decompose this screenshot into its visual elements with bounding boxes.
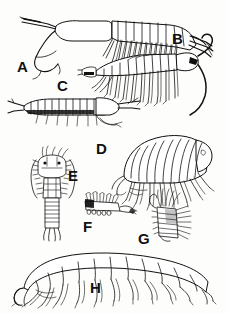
specimen-plate: A B C D E F G H (0, 0, 228, 314)
figure-h-drawing (12, 253, 216, 308)
figure-label-a: A (17, 59, 28, 74)
figure-e-drawing (31, 146, 75, 241)
figure-label-b: B (172, 31, 183, 46)
figure-d-drawing (112, 136, 214, 211)
figure-f-drawing (85, 192, 137, 216)
figure-label-d: D (96, 141, 107, 156)
figure-label-e: E (68, 168, 78, 183)
figure-label-f: F (83, 219, 92, 234)
figure-label-h: H (90, 280, 101, 295)
figure-label-c: C (57, 78, 68, 93)
plate-drawing (0, 0, 228, 314)
figure-label-g: G (138, 231, 150, 246)
figure-g-drawing (150, 189, 191, 241)
